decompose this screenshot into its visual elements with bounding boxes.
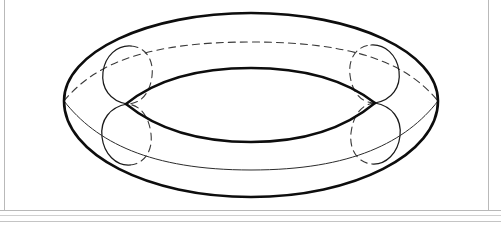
torus-diagram	[0, 0, 501, 226]
scan-edge-right	[488, 0, 489, 211]
figure-page	[0, 0, 501, 226]
scan-edge-left	[4, 0, 5, 210]
scan-edge-bottom-3	[0, 221, 501, 222]
figure-background	[0, 0, 501, 226]
scan-edge-bottom-2	[0, 215, 501, 216]
scan-edge-bottom-1	[0, 210, 501, 211]
